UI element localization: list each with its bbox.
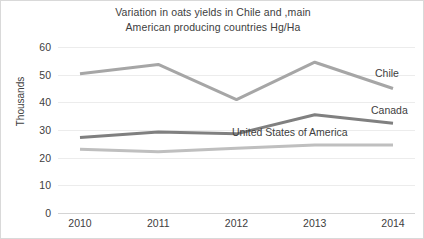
y-tick-label-50: 50 [1, 69, 51, 81]
series-label-canada: Canada [371, 104, 408, 116]
chart-title-line-1: Variation in oats yields in Chile and ,m… [1, 5, 424, 20]
y-tick-label-0: 0 [1, 207, 51, 219]
oats-yield-line-chart: Variation in oats yields in Chile and ,m… [0, 0, 424, 239]
y-tick-label-60: 60 [1, 41, 51, 53]
y-axis-tick-labels: 0102030405060 [1, 47, 51, 213]
y-tick-label-40: 40 [1, 96, 51, 108]
series-line-united-states-of-america [80, 145, 393, 152]
y-tick-label-20: 20 [1, 152, 51, 164]
series-line-chile [80, 62, 393, 99]
y-tick-label-10: 10 [1, 179, 51, 191]
x-tick-label-2010: 2010 [50, 217, 110, 229]
series-label-chile: Chile [375, 67, 399, 79]
chart-title: Variation in oats yields in Chile and ,m… [1, 5, 424, 35]
x-tick-label-2012: 2012 [207, 217, 267, 229]
y-tick-label-30: 30 [1, 124, 51, 136]
chart-title-line-2: American producing countries Hg/Ha [1, 20, 424, 35]
x-tick-label-2014: 2014 [363, 217, 423, 229]
series-label-united-states-of-america: United States of America [232, 126, 348, 138]
gridline-0 [58, 213, 415, 214]
x-axis-tick-labels: 20102011201220132014 [58, 217, 415, 235]
x-tick-label-2013: 2013 [285, 217, 345, 229]
x-tick-label-2011: 2011 [128, 217, 188, 229]
